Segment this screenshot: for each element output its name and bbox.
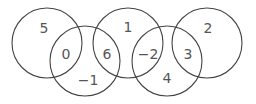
region-label: 3 xyxy=(184,46,193,62)
circle-a xyxy=(12,8,82,78)
region-label: −1 xyxy=(78,72,99,88)
region-label: 6 xyxy=(103,46,112,62)
circle-e xyxy=(172,8,242,78)
venn-chain-diagram: 50−161−2432 xyxy=(0,0,256,104)
region-label: 5 xyxy=(40,20,49,36)
region-label: 0 xyxy=(62,46,71,62)
region-label: −2 xyxy=(138,46,159,62)
region-label: 2 xyxy=(204,20,213,36)
region-label: 4 xyxy=(163,70,172,86)
region-label: 1 xyxy=(124,19,133,35)
